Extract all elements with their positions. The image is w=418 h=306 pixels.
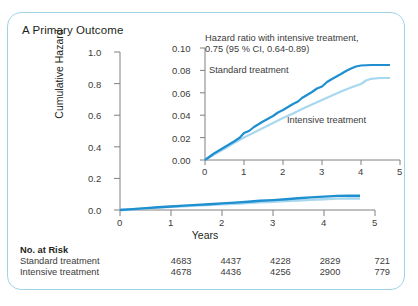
main-y-axis-label: Cumulative Hazard <box>53 14 65 134</box>
hazard-ratio-line-2: 0.75 (95 % CI, 0.64-0.89) <box>205 44 405 55</box>
main-ytick-3: 0.6 <box>88 110 101 121</box>
main-xtick-2: 2 <box>219 217 224 228</box>
inset-xtick-4: 4 <box>358 166 363 177</box>
table-row: Intensive treatment 4678 4436 4256 2900 … <box>20 267 390 278</box>
inset-ytick-3: 0.06 <box>172 88 191 99</box>
intensive-treatment-label: Intensive treatment <box>287 115 366 125</box>
risk-cell: 4437 <box>192 256 242 267</box>
risk-table-header: No. at Risk <box>20 245 390 255</box>
risk-cell: 2829 <box>291 256 341 267</box>
risk-cell: 4678 <box>142 267 192 278</box>
main-xtick-1: 1 <box>168 217 173 228</box>
main-ytick-4: 0.8 <box>88 79 101 90</box>
inset-ytick-1: 0.02 <box>172 133 191 144</box>
inset-xtick-2: 2 <box>280 166 285 177</box>
inset-y-axis <box>200 48 205 160</box>
risk-cell: 4683 <box>142 256 192 267</box>
main-y-axis <box>114 52 120 210</box>
inset-x-axis <box>205 160 400 165</box>
main-ytick-2: 0.4 <box>88 142 101 153</box>
risk-row-name: Standard treatment <box>20 256 142 267</box>
risk-cell: 4256 <box>241 267 291 278</box>
main-xtick-3: 3 <box>270 217 275 228</box>
main-ytick-1: 0.2 <box>88 173 101 184</box>
main-ytick-5: 1.0 <box>88 47 101 58</box>
main-xtick-0: 0 <box>117 217 122 228</box>
main-xtick-5: 5 <box>372 217 377 228</box>
main-curve-standard <box>120 196 360 210</box>
risk-cell: 2900 <box>291 267 341 278</box>
inset-xtick-0: 0 <box>202 166 207 177</box>
inset-xtick-5: 5 <box>397 166 402 177</box>
main-x-axis <box>120 210 375 216</box>
standard-treatment-label: Standard treatment <box>209 65 289 75</box>
risk-cell: 4228 <box>241 256 291 267</box>
risk-cell: 779 <box>340 267 390 278</box>
risk-cell: 721 <box>340 256 390 267</box>
inset-ytick-5: 0.10 <box>172 43 191 54</box>
inset-xtick-1: 1 <box>241 166 246 177</box>
hazard-ratio-annotation: Hazard ratio with intensive treatment, 0… <box>205 33 405 54</box>
inset-xtick-3: 3 <box>319 166 324 177</box>
risk-cell: 4436 <box>192 267 242 278</box>
main-ytick-0: 0.0 <box>88 205 101 216</box>
table-row: Standard treatment 4683 4437 4228 2829 7… <box>20 256 390 267</box>
inset-ytick-2: 0.04 <box>172 110 191 121</box>
inset-ytick-0: 0.00 <box>172 155 191 166</box>
inset-curve-standard <box>205 65 390 160</box>
inset-ytick-4: 0.08 <box>172 65 191 76</box>
main-xtick-4: 4 <box>321 217 326 228</box>
risk-table: No. at Risk Standard treatment 4683 4437… <box>20 245 390 278</box>
hazard-ratio-line-1: Hazard ratio with intensive treatment, <box>205 33 405 44</box>
main-x-axis-label: Years <box>110 229 300 241</box>
risk-row-name: Intensive treatment <box>20 267 142 278</box>
